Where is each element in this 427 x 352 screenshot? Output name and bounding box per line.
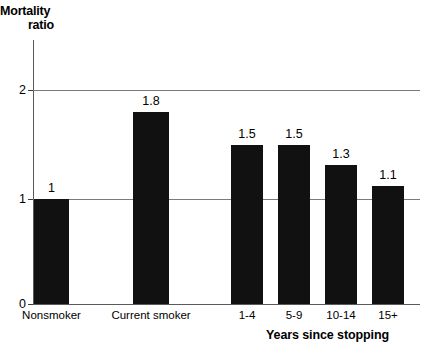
- bar-10-14: [325, 165, 357, 304]
- x-label-10-14: 10-14: [317, 309, 365, 322]
- bar-current-smoker: [133, 112, 169, 304]
- chart-figure: Mortality ratio 2 1 0 1 1.8 1.5 1.5 1.3: [0, 0, 427, 352]
- bar-value-5-9: 1.5: [278, 128, 310, 141]
- bar-value-1-4: 1.5: [231, 128, 263, 141]
- y-tick-mark-0: [28, 304, 33, 305]
- bar-nonsmoker: [34, 199, 69, 304]
- bar-value-10-14: 1.3: [325, 148, 357, 161]
- bar-15-plus: [372, 186, 404, 304]
- bar-value-nonsmoker: 1: [34, 182, 69, 195]
- bar-value-15-plus: 1.1: [372, 169, 404, 182]
- x-label-nonsmoker: Nonsmoker: [11, 309, 92, 322]
- x-axis-line: [33, 304, 420, 305]
- x-label-current-smoker: Current smoker: [100, 309, 202, 322]
- bars-area: 1 1.8 1.5 1.5 1.3 1.1: [0, 0, 427, 304]
- bar-1-4: [231, 145, 263, 304]
- x-label-15-plus: 15+: [366, 309, 410, 322]
- bar-value-current-smoker: 1.8: [133, 95, 169, 108]
- bar-5-9: [278, 145, 310, 304]
- x-label-1-4: 1-4: [224, 309, 270, 322]
- x-label-5-9: 5-9: [271, 309, 317, 322]
- x-axis-title: Years since stopping: [266, 328, 389, 342]
